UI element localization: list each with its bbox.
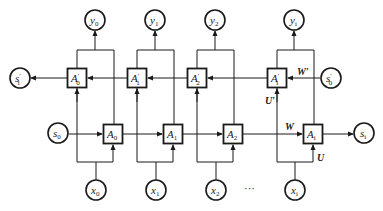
column-1-wiring bbox=[137, 31, 174, 180]
state-node-si: si bbox=[354, 123, 374, 143]
state-node-si-prime: s′i bbox=[10, 68, 30, 88]
output-node-yi: yi bbox=[284, 10, 304, 30]
forward-cell-a1: A1 bbox=[164, 125, 183, 144]
state-node-s0-prime: s′0 bbox=[321, 68, 341, 88]
input-node-xi: xi bbox=[285, 180, 305, 200]
output-node-y1: y1 bbox=[145, 10, 165, 30]
backward-cell-a2: A′2 bbox=[188, 69, 207, 88]
bidirectional-rnn-diagram: y0 y1 y2 yi A′0 A′1 A′2 A′i A0 A1 A2 bbox=[0, 0, 383, 211]
input-node-x0: x0 bbox=[86, 180, 106, 200]
column-i-wiring bbox=[277, 31, 314, 180]
backward-cell-a0: A′0 bbox=[68, 69, 87, 88]
backward-cell-ai: A′i bbox=[268, 69, 287, 88]
weight-label-u-prime: U′ bbox=[265, 95, 275, 106]
output-node-y2: y2 bbox=[205, 10, 225, 30]
forward-cell-a0: A0 bbox=[104, 125, 123, 144]
state-node-s0: s0 bbox=[48, 123, 68, 143]
output-node-y0: y0 bbox=[85, 10, 105, 30]
weight-label-u: U bbox=[317, 152, 325, 163]
weight-label-w-prime: W′ bbox=[297, 66, 309, 77]
ellipsis: ··· bbox=[244, 182, 255, 194]
input-node-x1: x1 bbox=[146, 180, 166, 200]
forward-cell-a2: A2 bbox=[224, 125, 243, 144]
backward-cell-a1: A′1 bbox=[128, 69, 147, 88]
input-node-x2: x2 bbox=[206, 180, 226, 200]
column-0-wiring bbox=[77, 31, 114, 180]
forward-cell-ai: Ai bbox=[304, 125, 323, 144]
column-2-wiring bbox=[197, 31, 234, 180]
weight-label-w: W bbox=[285, 121, 295, 132]
